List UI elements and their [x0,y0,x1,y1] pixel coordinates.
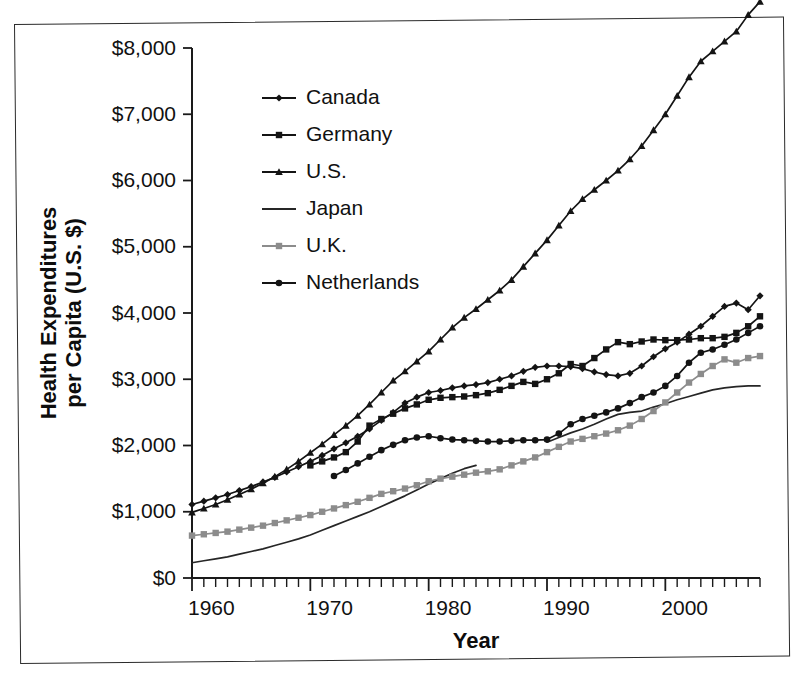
legend-item-u-s: U.S. [262,159,347,182]
y-tick-label: $4,000 [112,301,176,324]
marker-square [532,454,538,460]
marker-circle [615,405,622,412]
marker-square [556,444,562,450]
marker-diamond [508,372,515,379]
marker-circle [698,349,705,356]
marker-circle [425,433,432,440]
marker-square [603,430,609,436]
marker-circle [745,330,752,337]
marker-square [390,411,396,417]
marker-square [366,495,372,501]
chart-legend: CanadaGermanyU.S.JapanU.K.Netherlands [262,85,419,293]
legend-label: U.K. [306,233,347,256]
y-tick-label: $1,000 [112,499,176,522]
marker-square [579,436,585,442]
marker-square [224,528,230,534]
marker-diamond [212,494,219,501]
marker-diamond [532,364,539,371]
marker-triangle [756,0,764,5]
marker-square [556,370,562,376]
marker-diamond [413,394,420,401]
marker-diamond [614,372,621,379]
marker-diamond [437,387,444,394]
marker-square [721,356,727,362]
marker-square [378,491,384,497]
series-germany [307,313,763,468]
marker-square [757,313,763,319]
marker-square [201,531,207,537]
marker-circle [721,342,728,349]
marker-square [733,330,739,336]
marker-square [615,427,621,433]
marker-square [627,422,633,428]
marker-circle [508,438,515,445]
marker-square [508,383,514,389]
marker-circle [520,437,527,444]
marker-circle [354,460,361,467]
marker-diamond [555,362,562,369]
marker-square [532,381,538,387]
marker-square [307,512,313,518]
marker-square [627,341,633,347]
marker-square [721,334,727,340]
marker-square [319,509,325,515]
marker-circle [485,438,492,445]
marker-square [650,408,656,414]
marker-square [276,132,282,138]
marker-square [650,336,656,342]
marker-diamond [275,94,282,101]
marker-circle [414,434,421,441]
marker-square [449,394,455,400]
marker-circle [603,409,610,416]
series-netherlands [331,323,764,479]
x-tick-label: 1990 [543,596,590,619]
marker-circle [331,473,338,480]
marker-square [709,363,715,369]
marker-circle [638,394,645,401]
marker-square [248,524,254,530]
legend-item-u-k: U.K. [262,233,347,256]
marker-square [378,416,384,422]
marker-square [615,339,621,345]
marker-square [638,338,644,344]
marker-diamond [200,498,207,505]
marker-circle [591,412,598,419]
marker-square [591,433,597,439]
legend-item-japan: Japan [262,196,363,219]
legend-label: Netherlands [306,270,419,293]
marker-circle [733,336,740,343]
y-tick-label: $0 [153,566,176,589]
y-tick-label: $7,000 [112,102,176,125]
marker-square [366,422,372,428]
marker-square [425,397,431,403]
marker-circle [709,346,716,353]
marker-circle [366,453,373,460]
marker-square [733,359,739,365]
marker-circle [496,438,503,445]
y-axis-title-line1: Health Expenditures [36,207,61,420]
legend-label: Japan [306,196,363,219]
marker-square [662,337,668,343]
marker-square [319,458,325,464]
marker-square [686,379,692,385]
marker-square [461,393,467,399]
x-tick-label: 1970 [306,596,353,619]
marker-square [437,475,443,481]
marker-diamond [330,445,337,452]
marker-square [414,401,420,407]
marker-diamond [472,381,479,388]
marker-square [331,454,337,460]
marker-square [603,346,609,352]
marker-square [567,361,573,367]
marker-circle [461,437,468,444]
marker-circle [532,437,539,444]
marker-circle [757,323,764,330]
marker-square [343,449,349,455]
marker-square [402,405,408,411]
marker-square [236,526,242,532]
marker-diamond [461,382,468,389]
marker-square [496,466,502,472]
marker-square [295,515,301,521]
marker-circle [437,435,444,442]
marker-square [638,416,644,422]
